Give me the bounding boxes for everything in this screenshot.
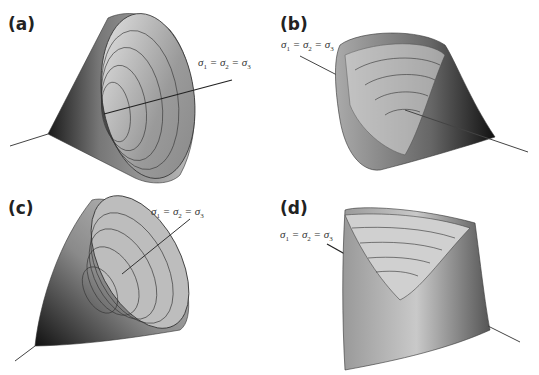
equation-label-a: σ1 = σ2 = σ3: [198, 56, 251, 71]
panel-label-d: (d): [280, 198, 308, 218]
panel-a-surface: [10, 7, 232, 184]
panel-label-a: (a): [8, 14, 35, 34]
equation-label-c: σ1 = σ2 = σ3: [151, 205, 204, 220]
panel-d-surface: [327, 208, 520, 370]
panel-label-c: (c): [8, 198, 34, 218]
equation-label-d: σ1 = σ2 = σ3: [280, 228, 333, 243]
equation-label-b: σ1 = σ2 = σ3: [281, 38, 334, 53]
panel-label-b: (b): [280, 14, 308, 34]
yield-surface-figure: [0, 0, 539, 375]
panel-b-surface: [300, 33, 528, 170]
